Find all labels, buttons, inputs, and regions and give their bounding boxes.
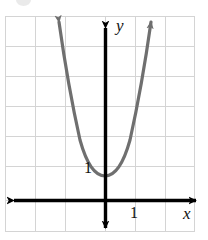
x-axis-tick-label-one: 1 xyxy=(130,205,138,221)
parabola-figure: y x 1 1 xyxy=(0,0,208,240)
graph-canvas xyxy=(0,0,208,240)
x-axis-label: x xyxy=(183,205,191,222)
y-axis-tick-label-one: 1 xyxy=(84,160,92,176)
y-axis-label: y xyxy=(116,17,124,34)
